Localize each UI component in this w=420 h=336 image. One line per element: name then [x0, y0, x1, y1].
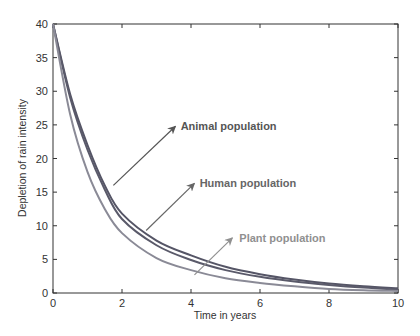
annotation-label: Animal population: [181, 120, 277, 132]
y-tick-label: 20: [36, 153, 48, 165]
line-chart: 02468100510152025303540 Animal populatio…: [0, 0, 420, 336]
x-tick-label: 10: [392, 297, 404, 309]
x-tick-label: 6: [257, 297, 263, 309]
y-tick-label: 25: [36, 119, 48, 131]
y-tick-label: 30: [36, 85, 48, 97]
annotation-label: Human population: [200, 177, 297, 189]
y-tick-label: 10: [36, 220, 48, 232]
annotation-label: Plant population: [239, 232, 325, 244]
x-tick-label: 4: [188, 297, 194, 309]
y-tick-label: 15: [36, 186, 48, 198]
y-axis-label: Depletion of rain intensity: [16, 98, 28, 217]
plot-area: [53, 24, 398, 293]
x-axis-label: Time in years: [194, 309, 257, 321]
y-tick-label: 0: [42, 287, 48, 299]
x-tick-label: 8: [326, 297, 332, 309]
y-tick-label: 35: [36, 52, 48, 64]
y-tick-label: 5: [42, 253, 48, 265]
x-tick-label: 0: [50, 297, 56, 309]
y-tick-label: 40: [36, 18, 48, 30]
x-tick-label: 2: [119, 297, 125, 309]
